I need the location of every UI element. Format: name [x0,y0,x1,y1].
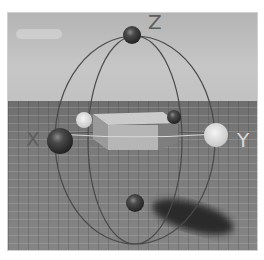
y-axis-handle[interactable] [204,123,228,147]
y-axis-label: Y [237,130,249,150]
bottom-handle[interactable] [126,194,144,212]
back-handle[interactable] [167,110,181,124]
x-axis-handle[interactable] [47,128,73,154]
3d-viewport[interactable]: Z X Y [7,12,258,251]
rotate-gizmo[interactable] [8,13,258,251]
selected-part[interactable] [93,112,178,150]
part-shadow [149,192,237,242]
back-light-handle[interactable] [76,112,92,128]
z-axis-label: Z [148,12,162,32]
x-axis-label: X [26,129,40,149]
z-axis-handle-top[interactable] [123,26,141,44]
